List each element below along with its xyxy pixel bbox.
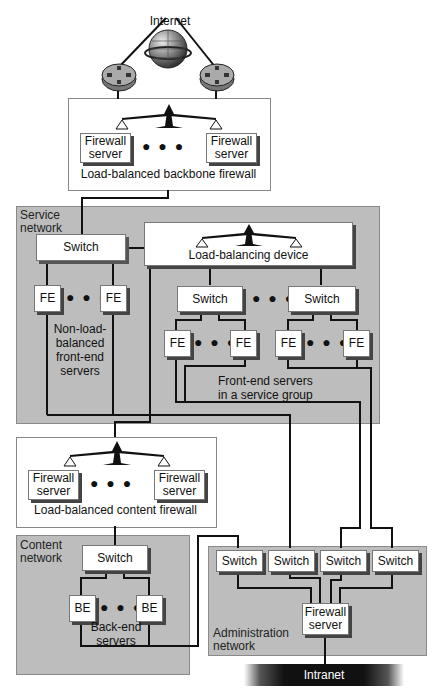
admin-switch-1: Switch <box>216 550 263 572</box>
content-network-label: Content network <box>20 539 70 565</box>
group-switch-right: Switch <box>288 286 356 312</box>
backbone-firewall-server-right: Firewall server <box>206 133 257 163</box>
be-right: BE <box>136 595 163 622</box>
backbone-ellipsis: ● ● ● <box>142 138 185 154</box>
internet-label: Internet <box>140 14 200 28</box>
group-fe-4: FE <box>343 330 370 357</box>
group-fe-3: FE <box>275 330 302 357</box>
intranet-label: Intranet <box>304 668 345 682</box>
admin-network-label: Administration network <box>213 627 313 653</box>
service-network-label: Service network <box>20 209 70 235</box>
content-firewall-server-left: Firewall server <box>28 470 79 500</box>
non-lb-caption: Non-load-balanced front-end servers <box>50 322 110 378</box>
fe-nonlb-right: FE <box>100 285 127 312</box>
admin-switch-4: Switch <box>372 550 419 572</box>
group-switch-left: Switch <box>177 286 243 312</box>
be-left: BE <box>69 595 96 622</box>
back-end-caption: Back-end servers <box>86 620 146 648</box>
admin-switch-3: Switch <box>320 550 367 572</box>
content-firewall-server-right: Firewall server <box>154 470 205 500</box>
intranet-bar: Intranet <box>244 664 404 686</box>
router-right-icon <box>198 62 236 92</box>
group-fe-2: FE <box>230 330 257 357</box>
load-balancing-device-label: Load-balancing device <box>188 249 308 262</box>
content-firewall-caption: Load-balanced content firewall <box>16 503 215 517</box>
admin-switch-2: Switch <box>268 550 315 572</box>
backbone-firewall-server-left: Firewall server <box>80 133 131 163</box>
backbone-firewall-caption: Load-balanced backbone firewall <box>68 167 269 181</box>
service-group-caption: Front-end servers in a service group <box>218 374 318 402</box>
admin-firewall-server: Firewall server <box>302 603 349 635</box>
service-switch: Switch <box>36 234 126 261</box>
router-left-icon <box>100 62 138 92</box>
group-fe-1: FE <box>164 330 191 357</box>
balance-scale-icon <box>194 224 304 248</box>
content-firewall-ellipsis: ● ● ● <box>90 475 133 491</box>
fe-nonlb-left: FE <box>34 285 61 312</box>
internet-globe-icon <box>144 27 194 71</box>
content-switch: Switch <box>82 545 148 571</box>
balance-scale-icon <box>114 104 224 130</box>
balance-scale-icon <box>62 441 172 467</box>
